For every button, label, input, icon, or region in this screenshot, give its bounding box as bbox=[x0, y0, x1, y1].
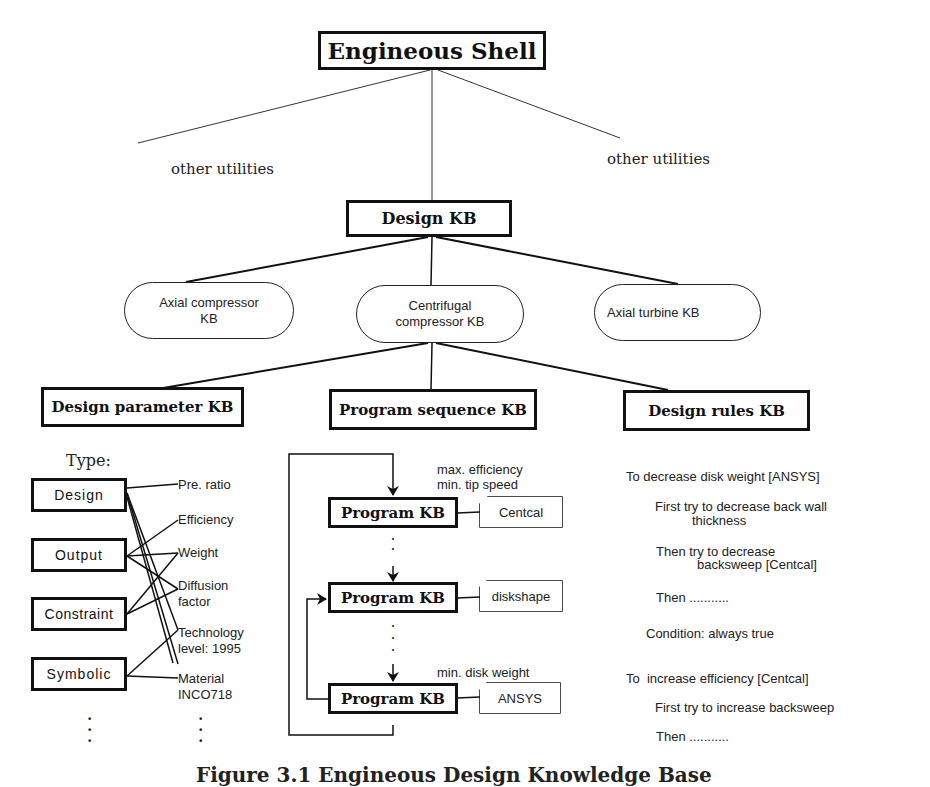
type-symbolic-label: Symbolic bbox=[47, 666, 112, 682]
other-utilities-right: other utilities bbox=[607, 150, 710, 168]
program-kb-1-label: Program KB bbox=[341, 504, 445, 522]
program-ellipsis-1: ·· bbox=[391, 534, 395, 554]
program-sequence-kb-title: Program sequence KB bbox=[339, 401, 527, 419]
program-sequence-kb-box: Program sequence KB bbox=[329, 389, 537, 430]
program1-note: max. efficiency min. tip speed bbox=[437, 462, 523, 492]
axial-turbine-label: Axial turbine KB bbox=[607, 305, 700, 321]
rule1-step1: First try to decrease back wall thicknes… bbox=[655, 500, 827, 528]
rule1-step3: Then ........... bbox=[656, 590, 729, 605]
program3-note: min. disk weight bbox=[437, 665, 529, 680]
rule2-goal: To increase efficiency [Centcal] bbox=[626, 671, 809, 686]
type-constraint-box: Constraint bbox=[31, 597, 127, 631]
type-design-label: Design bbox=[54, 487, 104, 503]
types-ellipsis: ··· bbox=[87, 713, 92, 746]
axial-turbine-kb: Axial turbine KB bbox=[594, 284, 761, 341]
param-efficiency: Efficiency bbox=[178, 512, 233, 527]
tool-diskshape: diskshape bbox=[480, 581, 562, 611]
param-material: Material INCO718 bbox=[178, 671, 232, 703]
centrifugal-compressor-kb: Centrifugal compressor KB bbox=[356, 285, 524, 343]
other-utilities-left: other utilities bbox=[171, 160, 274, 178]
type-output-box: Output bbox=[31, 538, 127, 572]
design-rules-kb-box: Design rules KB bbox=[623, 390, 810, 431]
axial-compressor-label-1: Axial compressor bbox=[159, 295, 259, 311]
program-ellipsis-2: ··· bbox=[391, 620, 395, 656]
centrifugal-label-1: Centrifugal bbox=[396, 298, 485, 314]
centrifugal-label-2: compressor KB bbox=[396, 314, 485, 330]
axial-compressor-label-2: KB bbox=[159, 311, 259, 327]
program-kb-3-label: Program KB bbox=[341, 690, 445, 708]
axial-compressor-kb: Axial compressor KB bbox=[124, 282, 294, 339]
engineous-shell-title: Engineous Shell bbox=[328, 37, 537, 64]
design-parameter-kb-box: Design parameter KB bbox=[41, 387, 244, 427]
rule1-goal: To decrease disk weight [ANSYS] bbox=[626, 469, 820, 484]
design-rules-kb-title: Design rules KB bbox=[648, 402, 785, 420]
engineous-shell-box: Engineous Shell bbox=[318, 31, 546, 70]
param-diffusion-factor: Diffusion factor bbox=[178, 578, 228, 610]
params-ellipsis: ··· bbox=[198, 713, 203, 746]
param-technology-level: Technology level: 1995 bbox=[178, 625, 244, 657]
program-kb-2-label: Program KB bbox=[341, 589, 445, 607]
design-kb-box: Design KB bbox=[346, 200, 512, 237]
design-kb-title: Design KB bbox=[382, 209, 477, 228]
type-heading: Type: bbox=[66, 451, 111, 470]
param-pre-ratio: Pre. ratio bbox=[178, 477, 231, 492]
rule2-step1: First try to increase backsweep bbox=[655, 700, 834, 715]
type-constraint-label: Constraint bbox=[45, 606, 114, 622]
type-symbolic-box: Symbolic bbox=[31, 657, 127, 691]
figure-caption: Figure 3.1 Engineous Design Knowledge Ba… bbox=[196, 763, 712, 787]
type-design-box: Design bbox=[31, 478, 127, 512]
design-parameter-kb-title: Design parameter KB bbox=[52, 398, 234, 416]
tool-ansys: ANSYS bbox=[480, 683, 560, 713]
program-kb-1: Program KB bbox=[328, 497, 458, 528]
program-kb-3: Program KB bbox=[328, 683, 458, 714]
rule2-step3: Then ........... bbox=[656, 729, 729, 744]
type-output-label: Output bbox=[55, 547, 103, 563]
rule1-condition: Condition: always true bbox=[646, 626, 774, 641]
rule1-step2: Then try to decrease backsweep [Centcal] bbox=[656, 545, 817, 571]
program-kb-2: Program KB bbox=[328, 582, 458, 613]
param-weight: Weight bbox=[178, 545, 218, 560]
tool-centcal: Centcal bbox=[480, 497, 562, 527]
